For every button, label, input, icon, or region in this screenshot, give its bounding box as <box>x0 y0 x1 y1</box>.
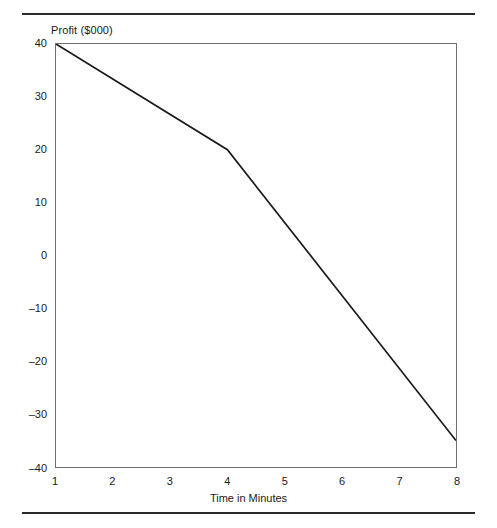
profit-line-series <box>56 44 456 441</box>
x-tick-label: 7 <box>385 476 415 487</box>
x-tick-label: 3 <box>155 476 185 487</box>
x-tick-label: 4 <box>212 476 242 487</box>
y-tick-label: 30 <box>3 91 47 102</box>
y-tick-label: 40 <box>3 38 47 49</box>
y-tick-label: 0 <box>3 250 47 261</box>
plot-area <box>55 43 457 468</box>
figure-bottom-rule <box>22 512 475 514</box>
x-tick-label: 8 <box>442 476 472 487</box>
x-tick-label: 6 <box>327 476 357 487</box>
y-tick-label: –40 <box>3 463 47 474</box>
line-chart-svg <box>56 44 456 467</box>
figure-container: Profit ($000) 403020100–10–20–30–40 1234… <box>0 0 497 528</box>
x-axis-title: Time in Minutes <box>0 492 497 504</box>
x-tick-label: 1 <box>40 476 70 487</box>
x-tick-label: 5 <box>270 476 300 487</box>
x-tick-label: 2 <box>97 476 127 487</box>
y-tick-label: –20 <box>3 356 47 367</box>
y-tick-label: 20 <box>3 144 47 155</box>
figure-top-rule <box>22 13 475 15</box>
y-tick-label: 10 <box>3 197 47 208</box>
y-axis-title: Profit ($000) <box>51 24 113 36</box>
y-tick-label: –10 <box>3 303 47 314</box>
y-tick-label: –30 <box>3 409 47 420</box>
